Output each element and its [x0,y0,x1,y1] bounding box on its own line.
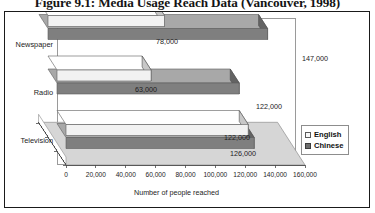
data-label-newspaper-chinese: 147,000 [302,54,328,63]
legend-item-english[interactable]: English [305,129,344,140]
category-label-radio: Radio [5,88,53,97]
x-tick-label-140000: 140,000 [263,171,287,178]
x-tick-label-100000: 100,000 [203,171,227,178]
x-tick-label-20000: 20,000 [86,171,106,178]
figure-page: Figure 9.1: Media Usage Reach Data (Vanc… [0,0,375,213]
x-tick-label-120000: 120,000 [233,171,257,178]
data-label-radio-chinese: 122,000 [256,102,282,111]
legend-label-chinese: Chinese [314,140,344,151]
chart-canvas: Newspaper Radio Television 020,00040,000… [5,12,371,209]
x-tick-label-160000: 160,000 [293,171,317,178]
legend-item-chinese[interactable]: Chinese [305,140,344,151]
data-label-radio-english: 63,000 [135,85,157,94]
x-tick-label-0: 0 [64,171,68,178]
x-tick-label-80000: 80,000 [175,171,195,178]
x-tick-label-60000: 60,000 [146,171,166,178]
legend-swatch-english-icon [305,132,311,138]
figure-caption: Figure 9.1: Media Usage Reach Data (Vanc… [0,0,375,11]
x-tick-label-40000: 40,000 [116,171,136,178]
category-label-television: Television [5,136,53,145]
legend-swatch-chinese-icon [305,143,311,149]
data-label-television-chinese: 126,000 [230,149,256,158]
data-label-television-english: 122,000 [224,133,250,142]
chart-legend[interactable]: English Chinese [301,125,349,155]
category-label-newspaper: Newspaper [5,40,53,49]
chart-frame: Newspaper Radio Television 020,00040,000… [4,11,370,208]
legend-label-english: English [314,129,341,140]
category-axis-labels: Newspaper Radio Television [5,12,57,167]
data-label-newspaper-english: 78,000 [156,37,178,46]
x-axis-title: Number of people reached [57,188,296,197]
